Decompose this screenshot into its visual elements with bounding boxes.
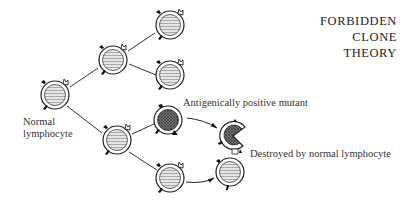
normal-lymphocyte-label: Normal lymphocyte — [23, 116, 73, 140]
mutant-label: Antigenically positive mutant — [183, 97, 308, 109]
title-line-3: THEORY — [320, 45, 397, 61]
title-line-1: FORBIDDEN — [320, 13, 397, 29]
normal-lymphocyte-cell — [41, 79, 69, 110]
destroyed-mutant-cell — [218, 119, 245, 154]
normal-label-line-1: Normal — [23, 116, 73, 128]
lymphocyte-cell-gen2-upper — [99, 44, 127, 75]
lymphocyte-cell-gen2-lower — [103, 124, 131, 155]
mutant-cell — [154, 104, 182, 135]
lymphocyte-cell-gen3-top — [156, 9, 184, 40]
title-line-2: CLONE — [320, 29, 397, 45]
diagram-title: FORBIDDEN CLONE THEORY — [320, 13, 397, 61]
arrow-normal-to-attack — [186, 178, 214, 183]
arrow-mutant-to-destroyed — [187, 118, 217, 128]
attacking-normal-cell — [216, 158, 244, 190]
lymphocyte-cell-gen3-second — [156, 59, 184, 90]
normal-label-line-2: lymphocyte — [23, 128, 73, 140]
lymphocyte-cell-gen3-bottom — [156, 162, 184, 193]
destroyed-label: Destroyed by normal lymphocyte — [250, 148, 391, 160]
